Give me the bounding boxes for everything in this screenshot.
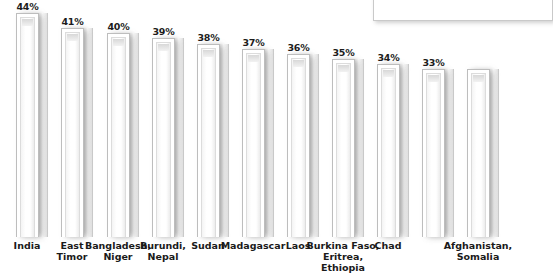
bar-side-face (265, 49, 274, 237)
bar-side-face (220, 44, 229, 237)
category-label-9: Chad (349, 240, 427, 251)
bar-body (332, 59, 355, 237)
bar-side-face (175, 38, 184, 237)
bar-10[interactable]: 33% (411, 0, 456, 238)
bar-body (107, 33, 130, 237)
bar-side-face (445, 69, 454, 237)
bar-side-face (355, 59, 364, 237)
bar-body (61, 28, 84, 237)
bar-value-label: 38% (186, 32, 231, 43)
bar-body (197, 44, 220, 237)
bar-side-face (490, 69, 499, 237)
bar-11[interactable] (456, 0, 501, 238)
bar-body (287, 54, 310, 237)
bar-5[interactable]: 38% (186, 0, 231, 238)
bar-body (422, 69, 445, 237)
bar-6[interactable]: 37% (231, 0, 276, 238)
bar-value-label: 36% (276, 42, 321, 53)
bar-value-label: 33% (411, 57, 456, 68)
bar-body (16, 13, 39, 237)
bar-value-label: 41% (50, 16, 95, 27)
bar-value-label: 44% (5, 1, 50, 12)
bar-3[interactable]: 40% (96, 0, 141, 238)
bar-side-face (39, 13, 48, 237)
category-label-10: Afghanistan, Somalia (439, 240, 517, 262)
bar-2[interactable]: 41% (50, 0, 95, 238)
bar-body (467, 69, 490, 237)
bar-side-face (310, 54, 319, 237)
bar-value-label: 39% (141, 26, 186, 37)
bar-4[interactable]: 39% (141, 0, 186, 238)
bar-side-face (400, 64, 409, 237)
category-axis: IndiaEast TimorBangladesh, NigerBurundi,… (0, 238, 553, 270)
bar-side-face (130, 33, 139, 237)
bar-body (152, 38, 175, 237)
bar-value-label: 37% (231, 37, 276, 48)
bar-7[interactable]: 36% (276, 0, 321, 238)
bar-value-label: 40% (96, 21, 141, 32)
bar-value-label: 35% (321, 47, 366, 58)
bar-body (377, 64, 400, 237)
bar-1[interactable]: 44% (5, 0, 50, 238)
bar-9[interactable]: 34% (366, 0, 411, 238)
bar-value-label: 34% (366, 52, 411, 63)
bar-8[interactable]: 35% (321, 0, 366, 238)
bar-side-face (84, 28, 93, 237)
bar-body (242, 49, 265, 237)
plot-area: 44%41%40%39%38%37%36%35%34%33% (0, 0, 553, 238)
